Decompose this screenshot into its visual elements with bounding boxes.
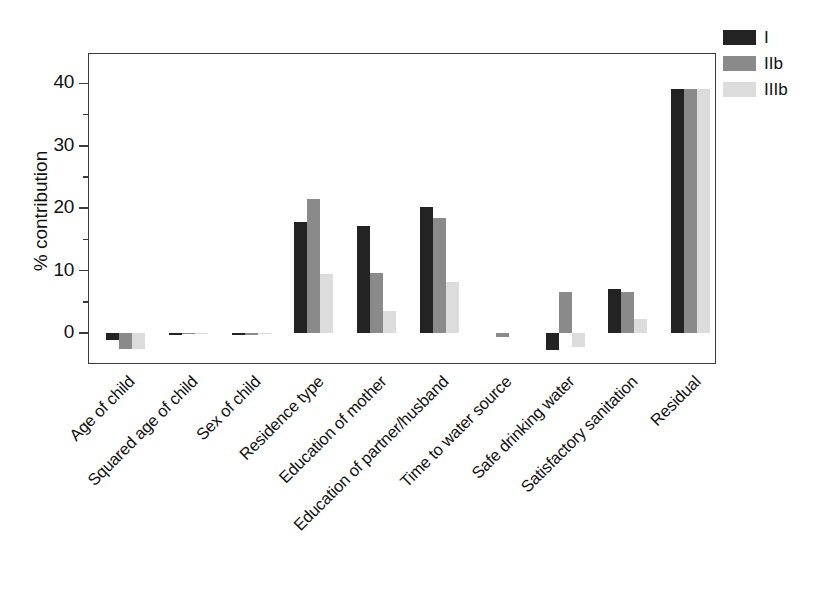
bar <box>446 282 459 333</box>
legend-item-label: IIb <box>764 55 783 72</box>
legend-item: I <box>723 26 809 48</box>
bar <box>621 292 634 333</box>
bar-group <box>671 53 710 364</box>
y-axis-tick-label: 40 <box>53 71 74 93</box>
bar <box>232 333 245 335</box>
bar <box>307 199 320 333</box>
y-axis-tick-label: 20 <box>53 196 74 218</box>
x-axis-tick-label: Squared age of child <box>0 372 202 602</box>
bar <box>357 226 370 333</box>
x-axis-tick-label: Education of mother <box>94 372 390 602</box>
bar <box>420 207 433 333</box>
x-axis-tick-label: Time to water source <box>219 372 515 602</box>
bar <box>132 333 145 349</box>
dark-swatch <box>723 30 756 45</box>
bar <box>245 333 258 335</box>
bar <box>169 333 182 335</box>
x-axis-tick-label: Satisfactory sanitation <box>345 372 641 602</box>
bar <box>320 274 333 333</box>
x-axis-tick-label: Sex of child <box>0 372 264 602</box>
bar-group <box>420 53 459 364</box>
y-axis-tick <box>79 207 88 209</box>
x-axis-tick-label: Residence type <box>31 372 327 602</box>
x-axis-tick-label: Safe drinking water <box>282 372 578 602</box>
bar <box>433 218 446 333</box>
x-axis-tick-label: Education of partner/husband <box>157 372 453 602</box>
medium-gray-swatch <box>723 56 756 71</box>
y-axis-tick-label: 0 <box>64 321 74 343</box>
legend-item: IIIb <box>723 78 809 100</box>
bar <box>106 333 119 340</box>
bar-group <box>357 53 396 364</box>
bar <box>258 333 271 334</box>
figure-panel: 010203040 % contribution Age of childSqu… <box>0 0 816 602</box>
y-axis-tick <box>79 83 88 85</box>
bar-group <box>483 53 522 364</box>
y-axis-tick <box>79 145 88 147</box>
light-gray-swatch <box>723 82 756 97</box>
bar <box>182 333 195 334</box>
bar-group <box>232 53 271 364</box>
bar <box>572 333 585 347</box>
legend: IIIbIIIb <box>723 26 809 104</box>
x-axis-tick-label: Age of child <box>0 372 139 602</box>
bar <box>119 333 132 349</box>
bar-group <box>106 53 145 364</box>
y-axis-tick <box>79 332 88 334</box>
y-axis-tick <box>79 270 88 272</box>
bar <box>684 89 697 333</box>
bars-layer <box>88 53 716 364</box>
bar-group <box>546 53 585 364</box>
bar <box>697 89 710 333</box>
bar <box>546 333 559 350</box>
y-axis-title: % contribution <box>30 91 52 331</box>
x-axis-tick-label: Residual <box>408 372 704 602</box>
figure-caption <box>0 586 816 602</box>
bar <box>496 333 509 337</box>
bar <box>383 311 396 333</box>
bar <box>608 289 621 333</box>
bar <box>671 89 684 333</box>
bar-group <box>608 53 647 364</box>
bar <box>294 222 307 333</box>
bar <box>634 319 647 333</box>
bar-group <box>169 53 208 364</box>
legend-item: IIb <box>723 52 809 74</box>
y-axis-tick-label: 10 <box>53 259 74 281</box>
y-axis-tick-label: 30 <box>53 134 74 156</box>
bar <box>559 292 572 333</box>
legend-item-label: I <box>764 29 769 46</box>
bar-group <box>294 53 333 364</box>
bar <box>195 333 208 334</box>
bar <box>370 273 383 333</box>
legend-item-label: IIIb <box>764 81 788 98</box>
